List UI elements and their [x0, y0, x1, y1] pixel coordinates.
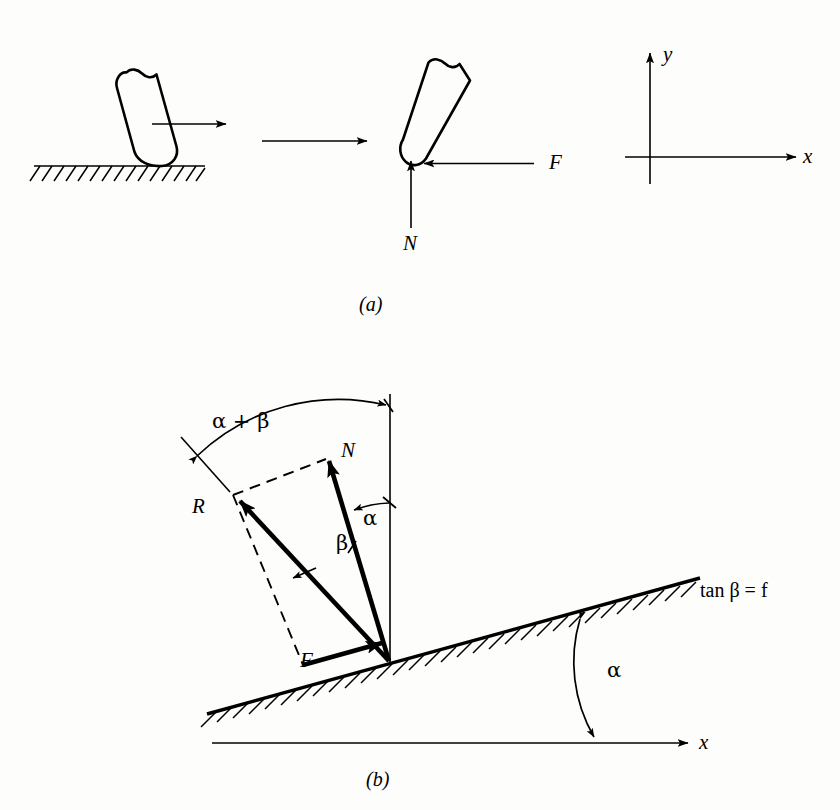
coordinate-axes-a: [625, 53, 796, 184]
block-upright: [116, 70, 177, 167]
parallelogram-dashed: [233, 459, 326, 665]
friction-f-vector-b: [303, 643, 382, 665]
angle-alpha-beta-label: α + β: [212, 411, 269, 432]
ground-line-left: [30, 166, 205, 181]
block-tipped: [400, 59, 470, 165]
panel-label-a: (a): [359, 294, 382, 314]
angle-incline-label-b: α: [607, 660, 621, 681]
panel-label-b: (b): [366, 769, 389, 789]
axis-x-label-a: x: [803, 146, 812, 167]
resultant-r-label-b: R: [192, 496, 205, 517]
friction-f-label-b: F: [300, 650, 313, 671]
angle-incline-alpha-arc: [574, 619, 594, 737]
normal-n-label-a: N: [403, 233, 417, 254]
figure-root: F N y x (a) α + β N R α β F α x tan β = …: [0, 0, 840, 810]
equation-tan-beta: tan β = f: [700, 580, 768, 600]
figure-canvas: [0, 0, 840, 810]
panel-a-group: [30, 53, 796, 228]
axis-y-label-a: y: [663, 44, 672, 65]
axis-x-label-b: x: [699, 732, 708, 753]
r-extension-line: [181, 437, 230, 492]
angle-alpha-label-b: α: [363, 508, 377, 529]
normal-n-label-b: N: [341, 440, 355, 461]
angle-beta-label-b: β: [336, 533, 348, 554]
force-f-label-a: F: [549, 152, 562, 173]
panel-b-group: [181, 394, 700, 743]
